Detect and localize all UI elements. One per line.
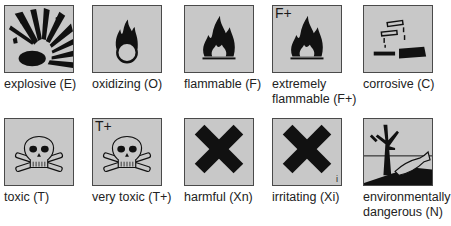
hazard-code-text: T+ <box>95 118 112 134</box>
hazard-code-text: F+ <box>275 5 292 21</box>
corrosion-icon <box>363 5 433 73</box>
flame-icon: F+ <box>272 5 342 73</box>
symbol-label: environmentally dangerous (N) <box>363 190 451 220</box>
label-line-2: flammable (F+) <box>272 92 356 107</box>
symbol-label: very toxic (T+) <box>92 190 172 205</box>
dead-tree-fish-icon <box>363 118 433 186</box>
symbol-label: flammable (F) <box>184 77 261 92</box>
symbol-label: oxidizing (O) <box>92 77 162 92</box>
label-line-2: dangerous (N) <box>363 205 451 220</box>
symbol-label: irritating (Xi) <box>272 190 339 205</box>
saltire-cross-icon: i <box>272 118 342 186</box>
symbol-label: toxic (T) <box>4 190 49 205</box>
symbol-label: corrosive (C) <box>363 77 435 92</box>
label-line-1: environmentally <box>363 190 451 205</box>
hazard-code-text: i <box>336 174 338 184</box>
saltire-cross-icon <box>184 118 254 186</box>
flame-over-circle-icon <box>92 5 162 73</box>
symbol-label: extremely flammable (F+) <box>272 77 356 107</box>
label-line-1: extremely <box>272 77 356 92</box>
flame-icon <box>184 5 254 73</box>
explosion-icon <box>4 5 74 73</box>
symbol-label: explosive (E) <box>4 77 76 92</box>
skull-crossbones-icon <box>4 118 74 186</box>
skull-crossbones-icon: T+ <box>92 118 162 186</box>
symbol-label: harmful (Xn) <box>184 190 253 205</box>
